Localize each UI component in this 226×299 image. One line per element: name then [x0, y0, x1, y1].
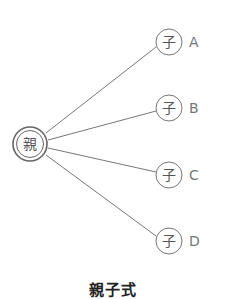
child-node-d-label: D	[189, 233, 200, 249]
child-node-b: 子 B	[156, 95, 199, 121]
child-node-a-label: A	[189, 34, 199, 50]
parent-node: 親	[13, 127, 47, 161]
diagram-caption: 親子式	[0, 278, 226, 299]
child-node-a-symbol: 子	[162, 34, 176, 50]
child-node-a: 子 A	[156, 29, 199, 55]
edge-parent-a	[46, 47, 156, 133]
child-node-c: 子 C	[156, 162, 199, 188]
edge-parent-d	[46, 155, 156, 236]
child-node-c-symbol: 子	[162, 167, 176, 183]
child-node-b-label: B	[189, 100, 199, 116]
edge-parent-b	[48, 111, 156, 140]
child-node-d: 子 D	[156, 228, 200, 254]
parent-node-label: 親	[23, 136, 37, 152]
child-node-c-label: C	[189, 167, 199, 183]
child-node-d-symbol: 子	[162, 233, 176, 249]
child-node-b-symbol: 子	[162, 100, 176, 116]
